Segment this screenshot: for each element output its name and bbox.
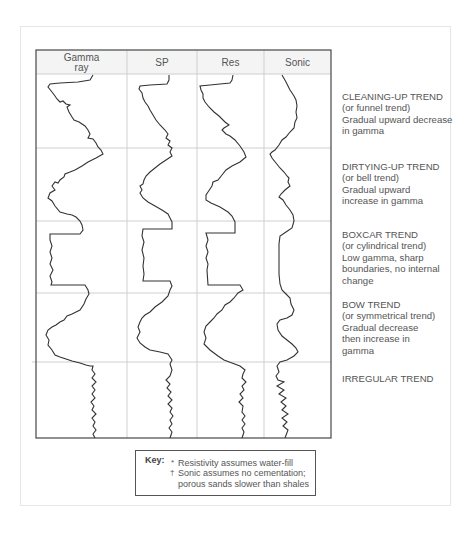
trend-label-cleaning-up: CLEANING-UP TREND (or funnel trend) Grad…	[342, 91, 474, 137]
column-header-sonic: Sonic	[264, 58, 331, 68]
res-curve	[200, 75, 246, 438]
trend-title: IRREGULAR TREND	[342, 373, 474, 384]
sonic-curve	[270, 75, 298, 438]
key-legend: Key: * Resistivity assumes water-fill † …	[135, 450, 316, 496]
trend-desc: change	[342, 275, 474, 286]
trend-label-dirtying-up: DIRTYING-UP TREND (or bell trend) Gradua…	[342, 161, 474, 207]
trend-label-bow: BOW TREND (or symmetrical trend) Gradual…	[342, 299, 474, 356]
trend-desc: Low gamma, sharp	[342, 252, 474, 263]
trend-title: CLEANING-UP TREND	[342, 91, 474, 102]
trend-desc: Gradual decrease	[342, 322, 474, 333]
trend-desc: Gradual upward decrease	[342, 114, 474, 125]
gamma-ray-curve	[46, 75, 103, 438]
trend-title: BOW TREND	[342, 299, 474, 310]
trend-desc: increase in gamma	[342, 195, 474, 206]
trend-desc: gamma	[342, 345, 474, 356]
trend-title: BOXCAR TREND	[342, 229, 474, 240]
trend-desc: Gradual upward	[342, 184, 474, 195]
trend-alt-name: (or bell trend)	[342, 172, 474, 183]
asterisk-marker: *	[171, 458, 174, 467]
trend-label-boxcar: BOXCAR TREND (or cylindrical trend) Low …	[342, 229, 474, 286]
chart-border	[36, 50, 331, 438]
key-label: Key:	[145, 455, 165, 465]
trend-alt-name: (or symmetrical trend)	[342, 310, 474, 321]
trend-desc: boundaries, no internal	[342, 263, 474, 274]
trend-alt-name: (or cylindrical trend)	[342, 240, 474, 251]
column-header-sp: SP	[127, 58, 197, 68]
trend-desc: in gamma	[342, 125, 474, 136]
gamma-header-line2: ray	[36, 63, 127, 73]
column-header-res: Res	[197, 58, 264, 68]
trend-desc: then increase in	[342, 333, 474, 344]
trend-title: DIRTYING-UP TREND	[342, 161, 474, 172]
trend-alt-name: (or funnel trend)	[342, 102, 474, 113]
sp-curve	[137, 75, 173, 438]
key-note-sonic-cont: porous sands slower than shales	[178, 479, 309, 490]
trend-label-irregular: IRREGULAR TREND	[342, 373, 474, 384]
key-note-sonic: Sonic assumes no cementation;	[178, 468, 306, 479]
key-note-resistivity: Resistivity assumes water-fill	[178, 458, 293, 469]
column-header-gamma-ray: Gamma ray	[36, 53, 127, 73]
dagger-marker: †	[170, 468, 174, 477]
